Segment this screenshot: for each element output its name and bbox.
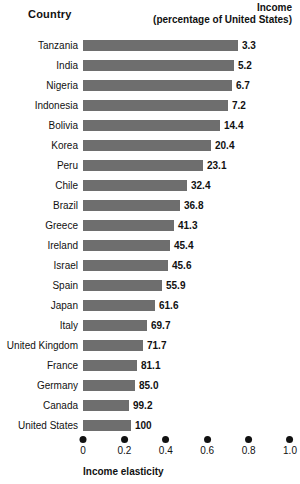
x-axis-tick-dot <box>204 436 211 443</box>
bar <box>83 280 162 291</box>
x-axis-tick-label: 0.8 <box>242 445 256 456</box>
bar-track: 99.2 <box>83 396 300 416</box>
bar-track: 23.1 <box>83 156 300 176</box>
x-axis-tick-label: 0.4 <box>159 445 173 456</box>
bar-row: Korea20.4 <box>0 136 300 156</box>
bar-row-country-label: Spain <box>0 276 78 296</box>
bar-row-country-label: Bolivia <box>0 116 78 136</box>
x-axis-tick-dot <box>80 436 87 443</box>
bar-row-country-label: Indonesia <box>0 96 78 116</box>
bar-track: 45.4 <box>83 236 300 256</box>
bar <box>83 60 234 71</box>
bar-value-label: 32.4 <box>187 176 210 196</box>
column-header-country: Country <box>28 8 72 20</box>
bar-value-label: 71.7 <box>143 336 166 356</box>
bar <box>83 240 170 251</box>
bar-value-label: 20.4 <box>211 136 234 156</box>
column-header-income-line1: Income <box>153 2 292 14</box>
bar-row: Italy69.7 <box>0 316 300 336</box>
bar-row-country-label: France <box>0 356 78 376</box>
x-axis-tick-dot <box>245 436 252 443</box>
bar-row-country-label: Tanzania <box>0 36 78 56</box>
bar-row: United States100 <box>0 416 300 436</box>
x-axis-tick-label: 0.2 <box>117 445 131 456</box>
bar <box>83 180 187 191</box>
bar-value-label: 45.6 <box>168 256 191 276</box>
bar-row: Spain55.9 <box>0 276 300 296</box>
bar-row: Tanzania3.3 <box>0 36 300 56</box>
bar <box>83 160 203 171</box>
bar-value-label: 45.4 <box>170 236 193 256</box>
x-axis-tick: 0.6 <box>200 436 214 456</box>
bar-value-label: 85.0 <box>135 376 158 396</box>
bar-row: Peru23.1 <box>0 156 300 176</box>
bar-row: Brazil36.8 <box>0 196 300 216</box>
bar-row: Ireland45.4 <box>0 236 300 256</box>
bar <box>83 300 155 311</box>
bar-row: Israel45.6 <box>0 256 300 276</box>
bar-value-label: 3.3 <box>238 36 256 56</box>
bar <box>83 260 168 271</box>
column-header-income-line2: (percentage of United States) <box>153 14 292 26</box>
bar-track: 32.4 <box>83 176 300 196</box>
bar-rows: Tanzania3.3India5.2Nigeria6.7Indonesia7.… <box>0 36 300 436</box>
bar-row-country-label: Greece <box>0 216 78 236</box>
bar-track: 14.4 <box>83 116 300 136</box>
bar <box>83 340 143 351</box>
bar-track: 61.6 <box>83 296 300 316</box>
bar-value-label: 55.9 <box>162 276 185 296</box>
x-axis-tick-dot <box>162 436 169 443</box>
bar <box>83 80 232 91</box>
bar-value-label: 100 <box>131 416 152 436</box>
bar-row-country-label: Peru <box>0 156 78 176</box>
bar-track: 3.3 <box>83 36 300 56</box>
bar <box>83 420 131 431</box>
bar <box>83 200 180 211</box>
bar-track: 6.7 <box>83 76 300 96</box>
x-axis-tick-dot <box>121 436 128 443</box>
bar <box>83 100 228 111</box>
bar <box>83 140 211 151</box>
bar-row-country-label: Nigeria <box>0 76 78 96</box>
bar-track: 7.2 <box>83 96 300 116</box>
bar-row-country-label: Germany <box>0 376 78 396</box>
bar <box>83 360 137 371</box>
bar-track: 100 <box>83 416 300 436</box>
column-header-income: Income (percentage of United States) <box>153 2 292 26</box>
bar-track: 85.0 <box>83 376 300 396</box>
bar-row: Bolivia14.4 <box>0 116 300 136</box>
bar-track: 5.2 <box>83 56 300 76</box>
bar-track: 41.3 <box>83 216 300 236</box>
bar-row: Chile32.4 <box>0 176 300 196</box>
bar <box>83 320 147 331</box>
x-axis-tick-dot <box>287 436 294 443</box>
bar-row: Indonesia7.2 <box>0 96 300 116</box>
bar-row-country-label: Ireland <box>0 236 78 256</box>
x-axis-tick-label: 0.6 <box>200 445 214 456</box>
x-axis-tick: 0.8 <box>242 436 256 456</box>
bar-value-label: 14.4 <box>220 116 243 136</box>
bar-row: Greece41.3 <box>0 216 300 236</box>
bar-row-country-label: United Kingdom <box>0 336 78 356</box>
bar-value-label: 81.1 <box>137 356 160 376</box>
x-axis-title: Income elasticity <box>83 466 164 477</box>
bar-track: 71.7 <box>83 336 300 356</box>
bar-row-country-label: Brazil <box>0 196 78 216</box>
bar-row: Canada99.2 <box>0 396 300 416</box>
bar-row-country-label: Japan <box>0 296 78 316</box>
bar-value-label: 7.2 <box>228 96 246 116</box>
bar-track: 69.7 <box>83 316 300 336</box>
x-axis-tick-label: 1.0 <box>283 445 297 456</box>
x-axis: 00.20.40.60.81.0 Income elasticity <box>0 436 300 484</box>
bar-track: 81.1 <box>83 356 300 376</box>
bar-value-label: 41.3 <box>174 216 197 236</box>
income-elasticity-chart: Country Income (percentage of United Sta… <box>0 0 300 484</box>
bar-row: Nigeria6.7 <box>0 76 300 96</box>
bar-value-label: 99.2 <box>129 396 152 416</box>
x-axis-tick: 0.4 <box>159 436 173 456</box>
x-axis-tick: 1.0 <box>283 436 297 456</box>
bar <box>83 380 135 391</box>
bar <box>83 40 238 51</box>
bar-value-label: 6.7 <box>232 76 250 96</box>
bar-row-country-label: Italy <box>0 316 78 336</box>
